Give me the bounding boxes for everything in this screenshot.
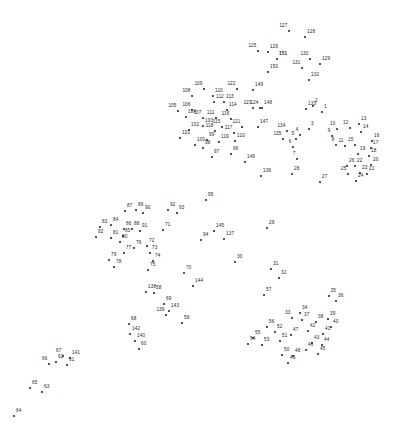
dot-number-label: 48 [295,349,300,354]
dot-number-label: 121 [232,120,240,125]
dot-number-label: 141 [72,351,80,356]
dot-number-label: 116 [222,112,230,117]
dot-marker [354,144,356,146]
dot-number-label: 82 [98,230,103,235]
dot-marker [287,362,289,364]
dot-marker [347,173,349,175]
dot-number-label: 145 [216,224,224,229]
dot-marker [113,266,115,268]
dot-marker [29,387,31,389]
dot-marker [99,226,101,228]
dot-number-label: 77 [126,246,131,251]
dot-number-label: 114 [229,103,237,108]
dot-number-label: 4 [296,128,299,133]
dot-marker [236,88,238,90]
dot-number-label: 55 [255,331,260,336]
dot-number-label: 47 [293,328,298,333]
dot-number-label: 148 [264,101,272,106]
dot-marker [266,227,268,229]
dot-number-label: 101 [182,131,190,136]
dot-number-label: 120 [237,134,245,139]
dot-marker [230,153,232,155]
dot-marker [95,236,97,238]
dot-number-label: 46 [308,343,313,348]
dot-marker [360,131,362,133]
dot-number-label: 17 [373,141,378,146]
dot-number-label: 76 [136,241,141,246]
dot-marker [213,101,215,103]
dot-number-label: 95 [208,193,213,198]
dot-marker [108,259,110,261]
dot-number-label: 107 [193,111,201,116]
dot-number-label: 122 [227,82,235,87]
dot-number-label: 84 [113,218,118,223]
dot-marker [129,333,131,335]
dot-number-label: 144 [195,279,203,284]
dot-marker [212,95,214,97]
dot-number-label: 89 [138,203,143,208]
dot-marker [321,111,323,113]
dot-marker [223,101,225,103]
dot-number-label: 20 [373,158,378,163]
dot-number-label: 6 [289,140,292,145]
dot-marker [322,333,324,335]
dot-number-label: 134 [277,124,285,129]
dot-number-label: 60 [141,342,146,347]
dot-marker [260,175,262,177]
dot-marker [291,173,293,175]
dot-marker [257,50,259,52]
dot-marker [344,145,346,147]
dot-marker [307,330,309,332]
dot-number-label: 73 [152,246,157,251]
dot-marker [168,310,170,312]
dot-number-label: 140 [137,334,145,339]
dot-marker [145,291,147,293]
dot-marker [281,354,283,356]
dot-marker [261,344,263,346]
dot-number-label: 146 [247,155,255,160]
dot-marker [194,144,196,146]
dot-marker [355,180,357,182]
dot-marker [223,238,225,240]
dot-number-label: 9 [328,129,331,134]
dot-marker [211,156,213,158]
dot-marker [41,391,43,393]
dot-marker [292,146,294,148]
dot-number-label: 110 [215,89,223,94]
dot-number-label: 63 [44,385,49,390]
dot-number-label: 10 [330,122,335,127]
dot-marker [185,116,187,118]
dot-number-label: 50 [284,348,289,353]
dot-number-label: 143 [171,304,179,309]
dot-marker [202,125,204,127]
dot-number-label: 151 [279,52,287,57]
dot-number-label: 113 [226,95,234,100]
dot-marker [319,181,321,183]
dot-marker [128,323,130,325]
dot-number-label: 32 [281,271,286,276]
dot-marker [214,130,216,132]
dot-number-label: 130 [300,52,308,57]
dot-number-label: 79 [111,253,116,258]
dot-marker [218,141,220,143]
dot-marker [295,138,297,140]
dot-marker [349,127,351,129]
dot-number-label: 35 [331,289,336,294]
dot-number-label: 49 [290,356,295,361]
dot-number-label: 18 [371,149,376,154]
dot-marker [165,314,167,316]
dot-marker [233,132,235,134]
dot-number-label: 15 [348,138,353,143]
dot-marker [124,210,126,212]
dot-marker [328,295,330,297]
dot-number-label: 7 [293,152,296,157]
dot-number-label: 131 [292,61,300,66]
dot-marker [357,153,359,155]
dot-marker [202,117,204,119]
dot-marker [192,285,194,287]
dot-number-label: 64 [16,409,21,414]
dot-number-label: 19 [360,147,365,152]
dot-marker [274,331,276,333]
dot-marker [181,322,183,324]
dot-marker [110,224,112,226]
